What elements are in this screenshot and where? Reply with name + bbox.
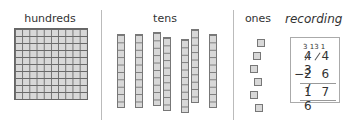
tens-rod [153, 32, 161, 106]
hundreds-flat [14, 28, 88, 100]
tens-rod [191, 29, 199, 103]
ones-label: ones [240, 12, 276, 25]
ones-cube [250, 65, 258, 73]
hundreds-label: hundreds [14, 12, 86, 25]
tens-label: tens [130, 12, 200, 25]
divider [101, 10, 102, 120]
ones-cube [250, 91, 258, 99]
answer-underline [300, 100, 336, 101]
ones-cube [255, 104, 263, 112]
ones-cube [257, 39, 265, 47]
answer-rule [300, 83, 336, 84]
recording-title: recording [285, 12, 342, 26]
tens-rod [181, 39, 189, 113]
recording-result: 1 7 6 [304, 85, 348, 113]
ones-cube [254, 78, 262, 86]
tens-rod [117, 34, 125, 108]
ones-cube [253, 52, 261, 60]
tens-rod [209, 34, 217, 108]
tens-rod [135, 34, 143, 108]
tens-rod [163, 37, 171, 111]
divider [233, 10, 234, 120]
